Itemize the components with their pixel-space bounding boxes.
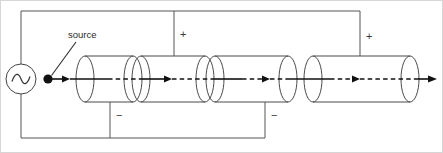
polarity-plus-1: + — [180, 28, 186, 40]
polarity-plus-2: + — [366, 30, 372, 42]
polarity-minus-1: − — [116, 109, 122, 121]
ac-source-symbol — [6, 64, 36, 94]
source-node-dot — [43, 74, 52, 83]
source-leader-line — [52, 42, 77, 76]
flow-arrowhead-1 — [164, 76, 172, 83]
source-label: source — [68, 29, 97, 40]
polarity-minus-2: − — [271, 109, 277, 121]
circuit-figure: source + + − − — [0, 0, 443, 153]
flow-axis — [52, 76, 437, 83]
flow-arrowhead-0 — [62, 76, 70, 83]
flow-arrowhead-3 — [352, 76, 360, 83]
figure-canvas: source + + − − — [0, 0, 443, 153]
flow-arrowhead-2 — [262, 76, 270, 83]
flow-arrowhead-4 — [428, 76, 437, 83]
figure-border — [1, 1, 443, 153]
